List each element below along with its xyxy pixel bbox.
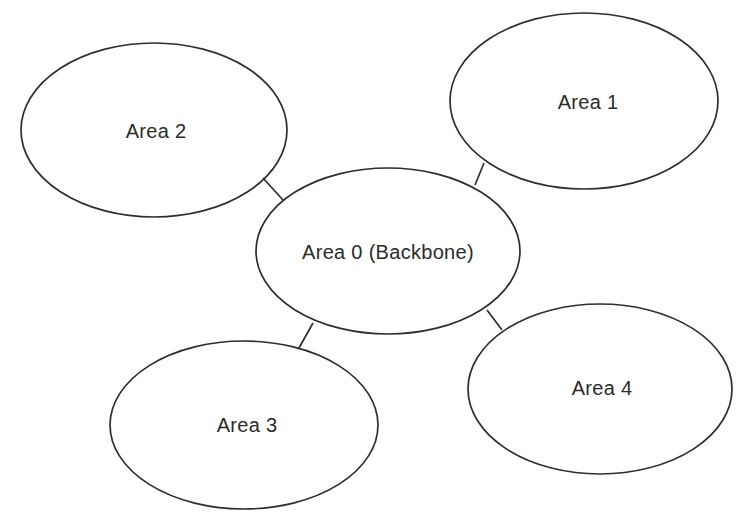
node-label-area2: Area 2 <box>126 120 187 142</box>
node-area1: Area 1 <box>450 13 718 189</box>
ospf-area-topology-diagram: Area 2 Area 1 Area 0 (Backbone) Area 3 A… <box>0 0 744 520</box>
node-area2: Area 2 <box>21 43 287 217</box>
edge-area2-area0 <box>263 178 283 200</box>
node-label-area0: Area 0 (Backbone) <box>302 241 474 263</box>
node-label-area3: Area 3 <box>217 414 278 436</box>
node-area4: Area 4 <box>468 304 732 474</box>
node-area0-backbone: Area 0 (Backbone) <box>256 168 520 334</box>
node-area3: Area 3 <box>110 341 378 509</box>
edge-area1-area0 <box>475 163 484 185</box>
edge-area0-area3 <box>299 323 313 348</box>
edge-area0-area4 <box>487 310 502 330</box>
node-label-area1: Area 1 <box>558 91 619 113</box>
node-label-area4: Area 4 <box>572 377 633 399</box>
